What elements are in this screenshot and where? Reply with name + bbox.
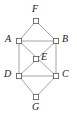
node-F[interactable] — [33, 18, 38, 23]
node-G[interactable] — [33, 94, 38, 99]
node-label-A: A — [5, 34, 11, 44]
node-group — [16, 18, 58, 99]
node-label-E: E — [41, 52, 47, 62]
edge-D-G — [19, 76, 36, 97]
node-E[interactable] — [33, 56, 38, 61]
node-label-G: G — [32, 102, 39, 112]
edge-C-G — [36, 76, 56, 97]
node-D[interactable] — [16, 73, 21, 78]
node-label-C: C — [62, 69, 69, 79]
node-B[interactable] — [53, 38, 58, 43]
graph-figure: F A B E D C G — [0, 0, 77, 119]
node-C[interactable] — [53, 73, 58, 78]
node-label-B: B — [62, 34, 68, 44]
node-label-D: D — [4, 69, 11, 79]
node-label-F: F — [32, 4, 38, 14]
node-A[interactable] — [16, 38, 21, 43]
